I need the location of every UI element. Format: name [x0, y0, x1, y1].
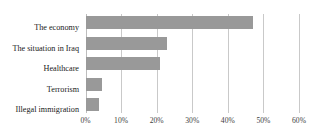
- bar: [86, 37, 168, 50]
- gridline-50: [263, 14, 264, 113]
- bar: [86, 78, 102, 91]
- bar-chart: The economyThe situation in IraqHealthca…: [0, 0, 314, 136]
- x-tick-label: 30%: [185, 116, 199, 125]
- y-axis-label-text: Terrorism: [47, 83, 82, 96]
- bar: [86, 98, 100, 111]
- y-axis-label-text: Illegal immigration: [16, 103, 82, 116]
- y-axis-label: The economy: [0, 16, 82, 29]
- y-axis-label-text: The situation in Iraq: [12, 42, 82, 55]
- y-axis-label: Illegal immigration: [0, 98, 82, 111]
- x-tick-label: 40%: [221, 116, 235, 125]
- bar-fill: [86, 16, 253, 29]
- bar-fill: [86, 37, 168, 50]
- x-tick-label: 50%: [256, 116, 270, 125]
- x-tick-label: 0%: [80, 116, 90, 125]
- bar-fill: [86, 78, 102, 91]
- bar-fill: [86, 98, 100, 111]
- plot-area: [86, 14, 300, 113]
- bar-fill: [86, 57, 161, 70]
- y-axis-label: Healthcare: [0, 57, 82, 70]
- y-axis-label-text: The economy: [34, 21, 82, 34]
- gridline-60: [299, 14, 300, 113]
- x-tick-label: 60%: [292, 116, 306, 125]
- bar: [86, 16, 253, 29]
- y-axis-label: The situation in Iraq: [0, 37, 82, 50]
- y-axis-label-text: Healthcare: [44, 62, 82, 75]
- x-tick-label: 10%: [114, 116, 128, 125]
- x-tick-label: 20%: [150, 116, 164, 125]
- y-axis-label: Terrorism: [0, 78, 82, 91]
- bar: [86, 57, 161, 70]
